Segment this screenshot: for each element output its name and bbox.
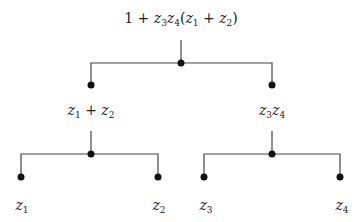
subscript: 2: [109, 110, 115, 120]
label-prod: z3z4: [259, 103, 285, 120]
label-z2: z2: [152, 198, 165, 215]
edge-sum-bracket: [21, 154, 158, 177]
paren-close: ): [232, 10, 237, 26]
var: z: [185, 10, 192, 26]
subscript: 1: [23, 205, 29, 215]
var: z: [154, 10, 161, 26]
node-prod: [269, 82, 276, 89]
label-z1: z1: [15, 198, 28, 215]
subscript: 4: [343, 205, 349, 215]
node-root: [178, 60, 185, 67]
node-z2: [155, 174, 162, 181]
plus: +: [81, 102, 102, 118]
subscript: 3: [207, 205, 213, 215]
subscript: 4: [279, 110, 285, 120]
var: z: [272, 102, 279, 118]
subscript: 2: [160, 205, 166, 215]
node-prod-branch: [269, 151, 276, 158]
node-sum-branch: [88, 151, 95, 158]
node-z3: [201, 174, 208, 181]
label-root: 1 + z3z4(z1 + z2): [124, 11, 238, 28]
node-z1: [18, 174, 25, 181]
label-sum: z1 + z2: [68, 103, 115, 120]
expression-tree-diagram: [0, 0, 362, 222]
label-z3: z3: [199, 198, 212, 215]
var: z: [167, 10, 174, 26]
node-sum: [88, 82, 95, 89]
plus: +: [199, 10, 220, 26]
tree-nodes: [18, 60, 344, 181]
node-z4: [337, 174, 344, 181]
label-z4: z4: [335, 198, 348, 215]
label-root-constant: 1 +: [124, 10, 154, 26]
